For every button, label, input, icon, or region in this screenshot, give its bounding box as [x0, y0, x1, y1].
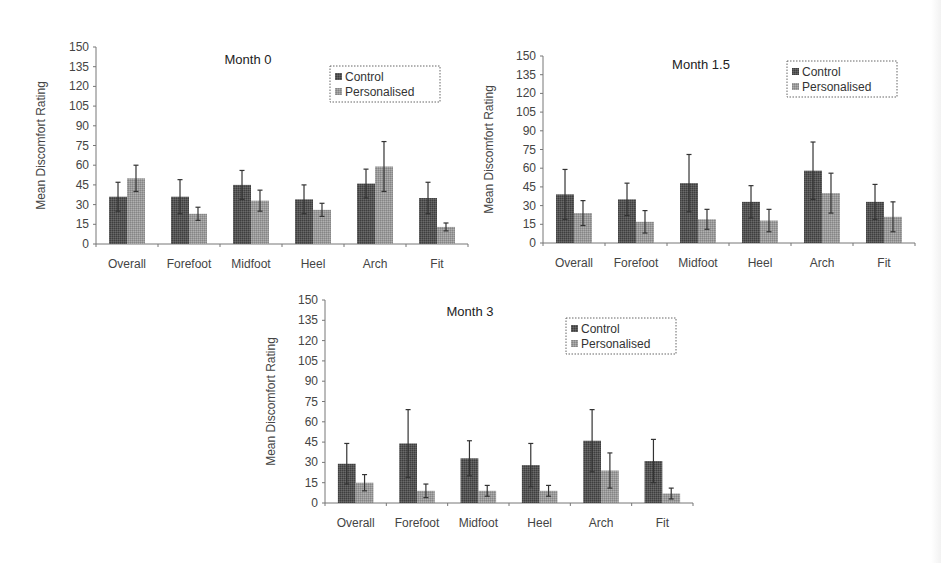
bar-group-arch [583, 410, 619, 503]
chart-month-3: Month 3Mean Discomfort Rating01530456075… [0, 0, 941, 563]
x-tick-label: Midfoot [459, 516, 499, 530]
y-tick-label: 90 [305, 374, 319, 388]
y-tick-label: 150 [298, 293, 318, 307]
legend-swatch-control [571, 325, 578, 332]
bar-group-fit [645, 439, 681, 503]
y-axis-label: Mean Discomfort Rating [264, 337, 278, 466]
y-tick-label: 105 [298, 354, 318, 368]
x-tick-label: Arch [589, 516, 614, 530]
bar-group-overall [338, 443, 374, 503]
x-tick-label: Overall [337, 516, 375, 530]
bar-group-midfoot [461, 441, 497, 503]
y-tick-label: 45 [305, 435, 319, 449]
y-tick-label: 30 [305, 455, 319, 469]
chart-svg: Month 3Mean Discomfort Rating01530456075… [0, 0, 941, 563]
y-tick-label: 135 [298, 313, 318, 327]
legend-label-personalised: Personalised [581, 337, 650, 351]
chart-title: Month 3 [447, 304, 494, 319]
x-tick-label: Fit [656, 516, 670, 530]
bar-group-forefoot [399, 410, 435, 503]
legend-label-control: Control [581, 322, 620, 336]
y-tick-label: 15 [305, 476, 319, 490]
y-tick-label: 75 [305, 395, 319, 409]
x-tick-label: Heel [527, 516, 552, 530]
page-edge-shadow [931, 0, 941, 563]
legend: ControlPersonalised [566, 318, 676, 354]
y-tick-label: 120 [298, 334, 318, 348]
legend-swatch-personalised [571, 340, 578, 347]
y-tick-label: 0 [311, 496, 318, 510]
bar-group-heel [522, 443, 558, 503]
x-tick-label: Forefoot [395, 516, 440, 530]
y-tick-label: 60 [305, 415, 319, 429]
